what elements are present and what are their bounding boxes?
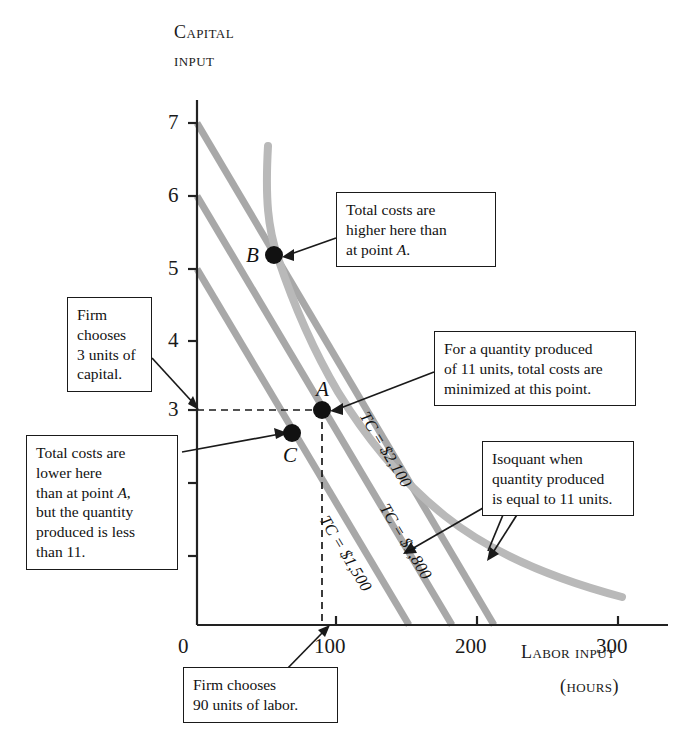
callout-b-line1: Total costs are: [346, 200, 486, 220]
callout-capital-line2: chooses: [77, 325, 142, 345]
callout-c-line3: than at point A,: [36, 483, 168, 503]
y-tick-label-3: 3: [168, 397, 179, 422]
callout-labor: Firm chooses 90 units of labor.: [183, 667, 338, 723]
callout-b-line3: at point A.: [346, 240, 486, 260]
x-axis-title-line2: (hours): [560, 676, 619, 697]
data-points: [265, 246, 331, 442]
y-tick-label-4: 4: [168, 328, 179, 353]
callout-isoquant-line2: quantity produced: [492, 469, 624, 489]
leader-to-point-b: [288, 238, 336, 255]
callout-a-line3: minimized at this point.: [444, 379, 626, 399]
callout-c-line6: than 11.: [36, 542, 168, 562]
callout-b-line2: higher here than: [346, 220, 486, 240]
callout-capital-line4: capital.: [77, 364, 142, 384]
callout-capital: Firm chooses 3 units of capital.: [67, 297, 152, 392]
arrowhead-b: [282, 249, 294, 261]
y-tick-label-6: 6: [168, 183, 179, 208]
callout-c-line2: lower here: [36, 463, 168, 483]
callout-a-point: For a quantity produced of 11 units, tot…: [434, 331, 636, 406]
point-b: [265, 246, 283, 264]
x-tick-label-300: 300: [596, 634, 628, 659]
x-tick-label-200: 200: [455, 634, 487, 659]
origin-label: 0: [178, 634, 189, 659]
callout-isoquant-line1: Isoquant when: [492, 449, 624, 469]
point-label-b: B: [246, 243, 259, 268]
callout-c-line4: but the quantity: [36, 502, 168, 522]
callout-a-line1: For a quantity produced: [444, 339, 626, 359]
point-label-a: A: [316, 377, 329, 402]
callout-labor-line1: Firm chooses: [193, 675, 328, 695]
y-tick-label-5: 5: [168, 256, 179, 281]
callout-capital-line1: Firm: [77, 305, 142, 325]
leader-lines: [152, 238, 520, 672]
y-axis-title-line2: input: [174, 50, 214, 71]
y-tick-label-7: 7: [168, 110, 179, 135]
figure-canvas: Capital input Labor input (hours) 7 6 5 …: [0, 0, 680, 747]
arrowhead-a: [330, 403, 343, 415]
callout-c-line1: Total costs are: [36, 443, 168, 463]
x-tick-label-100: 100: [314, 634, 346, 659]
callout-a-line2: of 11 units, total costs are: [444, 359, 626, 379]
callout-isoquant: Isoquant when quantity produced is equal…: [482, 441, 634, 516]
point-label-c: C: [283, 443, 297, 468]
callout-c-line5: produced is less: [36, 522, 168, 542]
point-c: [283, 424, 301, 442]
callout-c-point: Total costs are lower here than at point…: [26, 435, 178, 570]
callout-b-point: Total costs are higher here than at poin…: [336, 192, 496, 267]
y-axis-title-line1: Capital: [174, 22, 234, 43]
callout-labor-line2: 90 units of labor.: [193, 695, 328, 715]
callout-capital-line3: 3 units of: [77, 345, 142, 365]
point-a: [313, 401, 331, 419]
callout-isoquant-line3: is equal to 11 units.: [492, 489, 624, 509]
